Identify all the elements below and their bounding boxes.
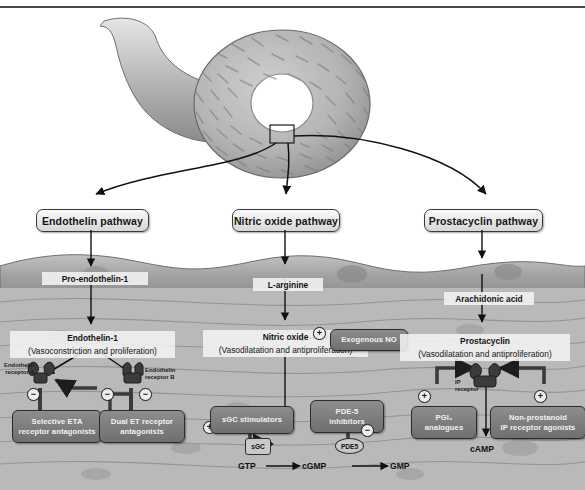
receptor-label-endothelin-b: Endothelin receptor B [145, 367, 175, 380]
metabolite-pro-endothelin-1: Pro-endothelin-1 [42, 272, 148, 285]
drug-exogenous-no[interactable]: Exogenous NO [330, 329, 408, 351]
metabolite-gmp: GMP [390, 461, 410, 471]
metabolite-arachidonic-acid: Arachidonic acid [444, 292, 534, 305]
plus-sign-exogenous-no: + [313, 327, 326, 340]
mediator-endothelin-1-effect: (Vasoconstriction and proliferation) [10, 344, 175, 357]
minus-sign-dual-et-b: − [139, 388, 152, 401]
metabolite-l-arginine: L-arginine [253, 278, 323, 291]
plus-sign-pgi2-analogues: + [418, 390, 431, 403]
receptor-glyphs [0, 360, 585, 400]
plus-sign-non-prostanoid-agonists: + [534, 390, 547, 403]
minus-sign-dual-et-a: − [101, 388, 114, 401]
metabolite-gtp: GTP [238, 461, 256, 471]
enzyme-sgc: sGC [245, 438, 271, 455]
vessel-illustration [0, 8, 585, 188]
enzyme-pde5: PDE5 [335, 438, 364, 454]
mediator-endothelin-1: Endothelin-1 (Vasoconstriction and proli… [10, 331, 175, 358]
minus-sign-pde5-inhibitors: − [361, 424, 374, 437]
figure-canvas: Endothelin pathway Nitric oxide pathway … [0, 0, 585, 490]
mediator-endothelin-1-name: Endothelin-1 [10, 331, 175, 344]
mediator-prostacyclin-name: Prostacyclin [400, 334, 570, 347]
metabolite-cgmp: cGMP [302, 461, 326, 471]
mediator-prostacyclin: Prostacyclin (Vasodilatation and antipro… [400, 334, 570, 361]
minus-sign-eta-antagonist: − [27, 388, 40, 401]
receptor-label-ip: IP receptor [455, 379, 479, 392]
drug-dual-et-receptor-antagonists[interactable]: Dual ET receptor antagonists [99, 410, 185, 443]
drug-selective-eta-receptor-antagonists[interactable]: Selective ETA receptor antagonists [12, 410, 102, 443]
drug-sgc-stimulators[interactable]: sGC stimulators [210, 406, 294, 434]
mediator-prostacyclin-effect: (Vasodilatation and antiproliferation) [400, 347, 570, 360]
drug-non-prostanoid-ip-receptor-agonists[interactable]: Non-prostanoid IP receptor agonists [490, 406, 585, 439]
metabolite-camp: cAMP [470, 444, 494, 454]
drug-pgi2-analogues[interactable]: PGI₂ analogues [411, 406, 477, 439]
receptor-label-endothelin-a: Endothelin receptor A [4, 362, 34, 375]
